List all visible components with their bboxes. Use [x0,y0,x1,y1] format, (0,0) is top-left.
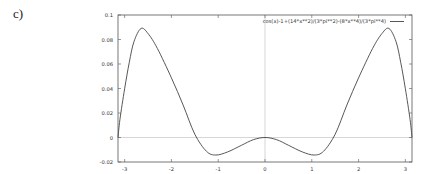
x-tick-label: 2 [357,166,360,172]
line-chart: -0.0200.020.040.060.080.1 -3-2-10123 cos… [0,0,424,174]
y-tick-label: 0.08 [101,37,113,43]
legend: cos(x)-1+(14*x**2)/(3*pi**2)-(8*x**4)/(3… [263,18,404,25]
y-tick-label: 0.04 [101,86,113,92]
x-tick-label: 3 [404,166,407,172]
y-tick-label: 0.1 [105,12,113,18]
y-axis: -0.0200.020.040.060.080.1 [100,12,412,165]
x-tick-label: -3 [122,166,127,172]
y-tick-label: 0.02 [101,110,113,116]
x-axis: -3-2-10123 [122,15,407,172]
x-tick-label: 0 [263,166,266,172]
x-tick-label: -1 [216,166,221,172]
legend-label: cos(x)-1+(14*x**2)/(3*pi**2)-(8*x**4)/(3… [263,18,386,25]
x-tick-label: -2 [169,166,174,172]
y-tick-label: -0.02 [100,159,113,165]
x-tick-label: 1 [310,166,313,172]
zero-axes [118,15,412,162]
y-tick-label: 0 [110,135,113,141]
y-tick-label: 0.06 [101,61,113,67]
